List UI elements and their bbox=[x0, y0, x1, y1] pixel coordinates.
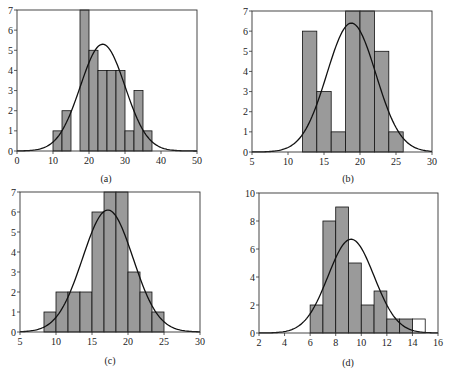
histogram-bar bbox=[68, 292, 80, 332]
x-tick-label: 5 bbox=[250, 156, 255, 167]
y-tick-label: 2 bbox=[243, 106, 248, 117]
y-tick-label: 4 bbox=[250, 272, 255, 283]
x-tick-label: 10 bbox=[283, 156, 293, 167]
y-tick-label: 1 bbox=[8, 125, 13, 136]
x-tick-label: 6 bbox=[308, 337, 313, 348]
histogram-bar bbox=[128, 272, 140, 332]
y-tick-label: 3 bbox=[243, 86, 248, 97]
y-tick-label: 6 bbox=[11, 207, 16, 218]
x-tick-label: 30 bbox=[195, 336, 205, 347]
histogram-bar bbox=[349, 263, 362, 333]
x-tick-label: 15 bbox=[319, 156, 329, 167]
histogram-bar bbox=[125, 131, 134, 151]
y-tick-label: 0 bbox=[243, 147, 248, 158]
panel-b: 5101520253001234567(b) bbox=[243, 6, 437, 186]
y-tick-label: 1 bbox=[11, 307, 16, 318]
panel-c: 5101520253001234567(c) bbox=[11, 187, 205, 368]
x-tick-label: 40 bbox=[156, 155, 166, 166]
histogram-bar bbox=[323, 221, 336, 333]
y-tick-label: 6 bbox=[250, 244, 255, 255]
x-tick-label: 2 bbox=[257, 337, 262, 348]
y-tick-label: 2 bbox=[8, 105, 13, 116]
histogram-bar bbox=[336, 207, 349, 333]
x-tick-label: 50 bbox=[192, 155, 202, 166]
histogram-bar bbox=[116, 192, 128, 332]
histogram-bar bbox=[89, 50, 98, 151]
histogram-bar bbox=[346, 11, 360, 152]
histogram-bar bbox=[98, 70, 107, 151]
y-tick-label: 6 bbox=[8, 25, 13, 36]
y-tick-label: 5 bbox=[11, 227, 16, 238]
y-tick-label: 4 bbox=[11, 247, 16, 258]
histogram-bar bbox=[361, 305, 374, 333]
x-tick-label: 16 bbox=[433, 337, 443, 348]
y-tick-label: 0 bbox=[11, 327, 16, 338]
x-tick-label: 5 bbox=[18, 336, 23, 347]
x-tick-label: 20 bbox=[84, 155, 94, 166]
histogram-bar bbox=[374, 291, 387, 333]
y-tick-label: 3 bbox=[8, 85, 13, 96]
histogram-bar bbox=[400, 319, 413, 333]
panel-label: (b) bbox=[342, 173, 354, 185]
x-tick-label: 15 bbox=[87, 336, 97, 347]
histogram-bar bbox=[80, 10, 89, 151]
x-tick-label: 0 bbox=[15, 155, 20, 166]
x-tick-label: 25 bbox=[159, 336, 169, 347]
y-tick-label: 5 bbox=[8, 45, 13, 56]
y-tick-label: 4 bbox=[8, 65, 13, 76]
histogram-bar bbox=[92, 212, 104, 332]
x-tick-label: 20 bbox=[355, 156, 365, 167]
histogram-bar bbox=[331, 132, 345, 152]
histogram-bar bbox=[107, 70, 116, 151]
y-tick-label: 7 bbox=[8, 5, 13, 16]
panel-label: (c) bbox=[104, 355, 115, 367]
histogram-bar bbox=[56, 292, 68, 332]
panel-label: (d) bbox=[342, 357, 354, 369]
histogram-bar bbox=[44, 312, 56, 332]
histogram-bar bbox=[310, 305, 323, 333]
y-tick-label: 0 bbox=[8, 146, 13, 157]
y-tick-label: 6 bbox=[243, 26, 248, 37]
histogram-bar bbox=[374, 51, 388, 152]
x-tick-label: 25 bbox=[391, 156, 401, 167]
histogram-bar bbox=[140, 292, 152, 332]
y-tick-label: 3 bbox=[11, 267, 16, 278]
y-tick-label: 10 bbox=[245, 188, 255, 199]
x-tick-label: 4 bbox=[282, 337, 287, 348]
y-tick-label: 0 bbox=[250, 328, 255, 339]
x-tick-label: 14 bbox=[407, 337, 417, 348]
y-tick-label: 4 bbox=[243, 66, 248, 77]
histogram-bar bbox=[302, 31, 316, 152]
y-tick-label: 8 bbox=[250, 216, 255, 227]
y-tick-label: 1 bbox=[243, 126, 248, 137]
x-tick-label: 8 bbox=[333, 337, 338, 348]
x-tick-label: 30 bbox=[427, 156, 437, 167]
histogram-figure: 0102030405001234567(a) 51015202530012345… bbox=[0, 0, 449, 376]
x-tick-label: 10 bbox=[51, 336, 61, 347]
x-tick-label: 10 bbox=[48, 155, 58, 166]
histogram-bar bbox=[80, 292, 92, 332]
panel-d: 2468101214160246810(d) bbox=[245, 188, 443, 370]
y-tick-label: 2 bbox=[11, 287, 16, 298]
x-tick-label: 12 bbox=[382, 337, 392, 348]
x-tick-label: 20 bbox=[123, 336, 133, 347]
panel-label: (a) bbox=[100, 173, 111, 185]
y-tick-label: 5 bbox=[243, 46, 248, 57]
y-tick-label: 7 bbox=[11, 187, 16, 198]
y-tick-label: 2 bbox=[250, 300, 255, 311]
y-tick-label: 7 bbox=[243, 6, 248, 17]
panel-a: 0102030405001234567(a) bbox=[8, 5, 202, 186]
x-tick-label: 10 bbox=[356, 337, 366, 348]
histogram-bar bbox=[317, 92, 331, 152]
histogram-bar bbox=[360, 11, 374, 152]
x-tick-label: 30 bbox=[120, 155, 130, 166]
